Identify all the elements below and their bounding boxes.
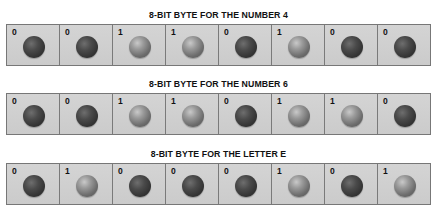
sphere-icon <box>129 175 151 197</box>
bit-cell: 1 <box>113 25 166 65</box>
byte-title: 8-BIT BYTE FOR THE NUMBER 4 <box>23 8 414 21</box>
sphere-icon <box>394 36 416 58</box>
bit-value: 0 <box>224 167 229 176</box>
bit-cell: 0 <box>113 164 166 204</box>
bit-cell: 0 <box>378 94 430 134</box>
bit-value: 1 <box>171 97 176 106</box>
bit-value: 0 <box>65 97 70 106</box>
sphere-icon <box>288 175 310 197</box>
sphere-icon <box>23 105 45 127</box>
bit-value: 0 <box>12 28 17 37</box>
bit-value: 0 <box>383 28 388 37</box>
bit-cell: 0 <box>60 94 113 134</box>
sphere-icon <box>182 36 204 58</box>
sphere-icon <box>235 175 257 197</box>
bit-cell: 0 <box>7 94 60 134</box>
sphere-icon <box>235 105 257 127</box>
bit-value: 1 <box>277 97 282 106</box>
bit-cell: 1 <box>60 164 113 204</box>
sphere-icon <box>76 175 98 197</box>
bit-cell: 0 <box>166 164 219 204</box>
bit-value: 1 <box>171 28 176 37</box>
byte-row: 0 0 1 1 0 1 1 0 <box>6 93 431 135</box>
byte-group-letter-e: 8-BIT BYTE FOR THE LETTER E 0 1 0 0 0 1 … <box>6 147 431 205</box>
bit-cell: 0 <box>7 25 60 65</box>
bit-cell: 1 <box>272 164 325 204</box>
sphere-icon <box>341 175 363 197</box>
bit-cell: 1 <box>113 94 166 134</box>
byte-group-number-4: 8-BIT BYTE FOR THE NUMBER 4 0 0 1 1 0 1 … <box>6 8 431 66</box>
bit-value: 1 <box>383 167 388 176</box>
bit-value: 1 <box>118 28 123 37</box>
bit-value: 1 <box>118 97 123 106</box>
byte-group-number-6: 8-BIT BYTE FOR THE NUMBER 6 0 0 1 1 0 1 … <box>6 77 431 135</box>
byte-row: 0 1 0 0 0 1 0 1 <box>6 163 431 205</box>
bit-value: 0 <box>12 167 17 176</box>
bit-value: 0 <box>224 97 229 106</box>
sphere-icon <box>235 36 257 58</box>
bit-cell: 0 <box>219 164 272 204</box>
sphere-icon <box>288 36 310 58</box>
sphere-icon <box>23 36 45 58</box>
bit-value: 1 <box>277 167 282 176</box>
byte-title: 8-BIT BYTE FOR THE LETTER E <box>23 147 414 160</box>
bit-value: 0 <box>330 167 335 176</box>
sphere-icon <box>394 175 416 197</box>
bit-cell: 0 <box>219 25 272 65</box>
bit-cell: 0 <box>219 94 272 134</box>
bit-cell: 1 <box>378 164 430 204</box>
sphere-icon <box>129 105 151 127</box>
bit-cell: 0 <box>60 25 113 65</box>
bit-value: 0 <box>65 28 70 37</box>
bit-value: 1 <box>65 167 70 176</box>
bit-value: 1 <box>277 28 282 37</box>
bit-cell: 0 <box>7 164 60 204</box>
bit-cell: 1 <box>272 94 325 134</box>
bit-cell: 0 <box>378 25 430 65</box>
bit-value: 0 <box>118 167 123 176</box>
bit-cell: 1 <box>325 94 378 134</box>
sphere-icon <box>23 175 45 197</box>
sphere-icon <box>182 175 204 197</box>
sphere-icon <box>129 36 151 58</box>
bit-cell: 0 <box>325 25 378 65</box>
bit-value: 0 <box>330 28 335 37</box>
byte-row: 0 0 1 1 0 1 0 0 <box>6 24 431 66</box>
bit-cell: 1 <box>272 25 325 65</box>
bit-value: 0 <box>171 167 176 176</box>
bit-cell: 0 <box>325 164 378 204</box>
sphere-icon <box>76 105 98 127</box>
bit-value: 0 <box>12 97 17 106</box>
bit-value: 0 <box>383 97 388 106</box>
sphere-icon <box>394 105 416 127</box>
bit-value: 0 <box>224 28 229 37</box>
byte-title: 8-BIT BYTE FOR THE NUMBER 6 <box>23 77 414 90</box>
bit-cell: 1 <box>166 25 219 65</box>
sphere-icon <box>341 105 363 127</box>
sphere-icon <box>288 105 310 127</box>
sphere-icon <box>76 36 98 58</box>
sphere-icon <box>182 105 204 127</box>
sphere-icon <box>341 36 363 58</box>
bit-value: 1 <box>330 97 335 106</box>
bit-cell: 1 <box>166 94 219 134</box>
